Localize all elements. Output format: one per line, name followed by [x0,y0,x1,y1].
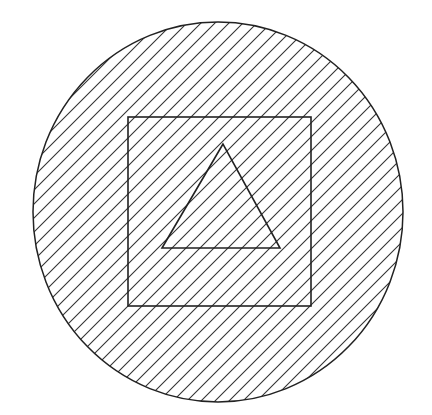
circle-hatch-fill [33,22,403,402]
diagram-canvas [0,0,432,415]
hatched-circle [33,22,403,402]
